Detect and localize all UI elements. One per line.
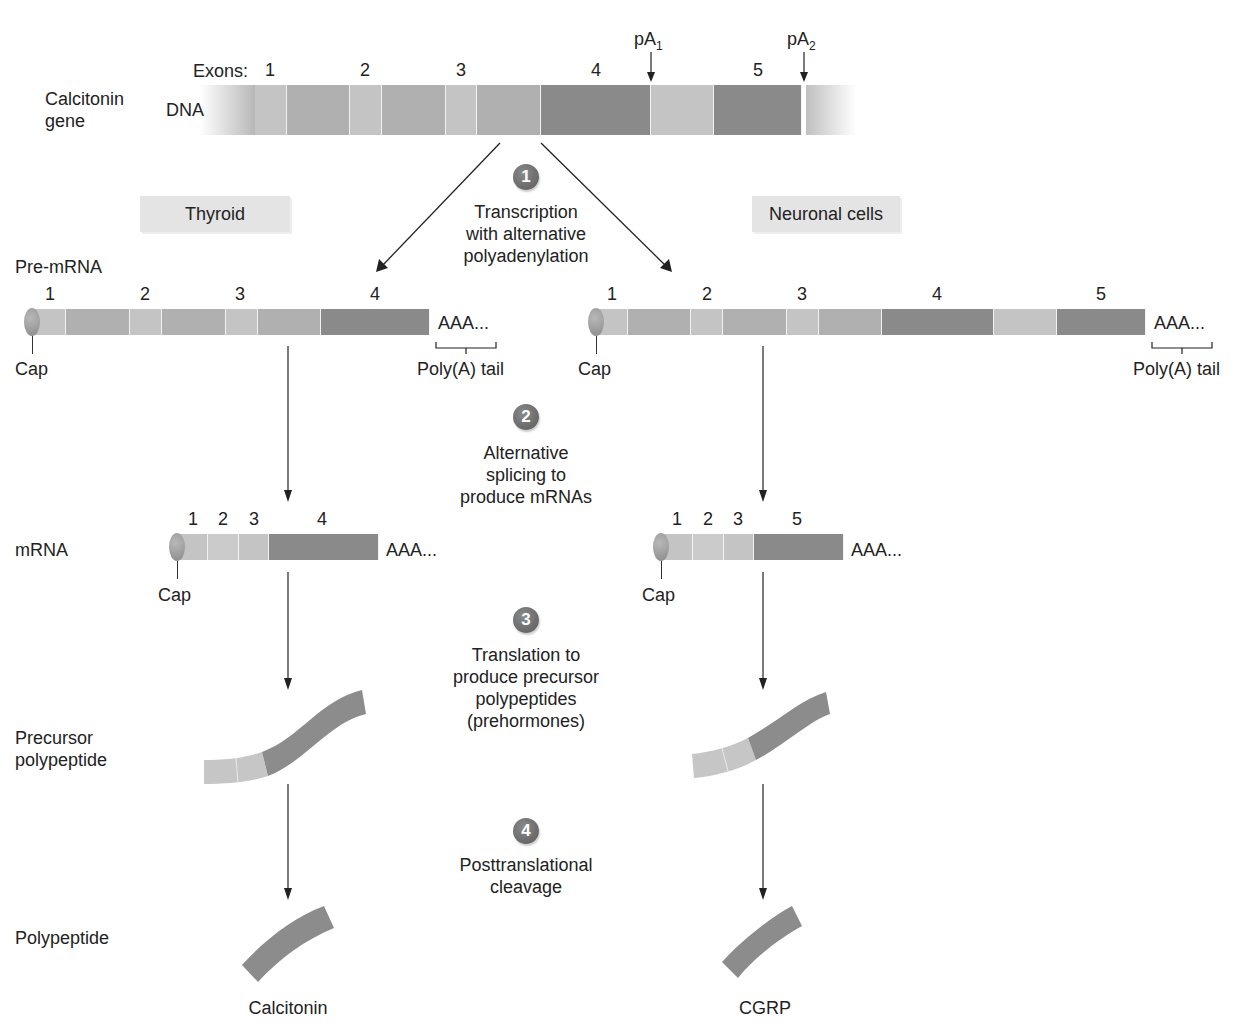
pre-left-polya-tail-label: Poly(A) tail [417, 358, 504, 380]
gene-title-line2: gene [45, 110, 85, 132]
mrna-right-exon-2 [693, 534, 724, 560]
dna-exon-5 [714, 85, 802, 135]
mrna-left-exon-4-label: 4 [317, 509, 327, 530]
pre-right-exon-5 [1057, 309, 1146, 335]
step-1-text: Transcriptionwith alternativepolyadenyla… [426, 201, 626, 267]
mrna-right-exon-1-label: 1 [672, 509, 682, 530]
product-calcitonin: Calcitonin [228, 997, 348, 1019]
mrna-left-exon-3-label: 3 [249, 509, 259, 530]
cgrp-shape [722, 906, 802, 978]
pre-right-intron-4 [994, 309, 1057, 335]
pre-right-exon-4 [882, 309, 994, 335]
dna-exon-4 [541, 85, 651, 135]
pre-right-polya: AAA... [1154, 312, 1205, 334]
pre-mrna-label: Pre-mRNA [15, 256, 102, 278]
dna-bar [255, 85, 802, 135]
dna-exon-2-label: 2 [360, 60, 370, 81]
pre-right-intron-3 [819, 309, 882, 335]
mrna-right-polya: AAA... [851, 539, 902, 561]
pre-left-exon-1-label: 1 [45, 284, 55, 305]
mrna-left-exon-4 [269, 534, 379, 560]
cap-stem [177, 561, 178, 579]
tissue-neuronal-cells: Neuronal cells [752, 196, 900, 232]
step-4-badge: 4 [513, 818, 539, 844]
cap-stem [596, 336, 597, 354]
dna-exon-3-label: 3 [456, 60, 466, 81]
step-4-text: Posttranslationalcleavage [426, 854, 626, 898]
pre-right-polya-tail-label: Poly(A) tail [1133, 358, 1220, 380]
dna-exon-4-label: 4 [591, 60, 601, 81]
mrna-left-exon-2-label: 2 [218, 509, 228, 530]
step-3-text: Translation toproduce precursorpolypepti… [416, 644, 636, 732]
gene-title-line1: Calcitonin [45, 88, 124, 110]
mrna-left-exon-2 [208, 534, 239, 560]
dna-exon-1-label: 1 [265, 60, 275, 81]
cap-stem [32, 336, 33, 354]
polypeptide-label: Polypeptide [15, 927, 109, 949]
mrna-right-exon-5-label: 5 [792, 509, 802, 530]
mrna-left-polya: AAA... [386, 539, 437, 561]
dna-exon-2 [350, 85, 382, 135]
dna-label: DNA [166, 99, 204, 121]
cap-icon [24, 308, 40, 336]
calcitonin-shape [242, 906, 334, 982]
pa2-label: pA2 [787, 28, 816, 57]
mrna-right-exon-3 [724, 534, 754, 560]
pre-left-intron-1 [66, 309, 130, 335]
mrna-right-exon-5 [754, 534, 844, 560]
mrna-right-bar [661, 534, 844, 560]
pre-right-exon-4-label: 4 [932, 284, 942, 305]
pre-left-exon-4-label: 4 [370, 284, 380, 305]
step-2-badge: 2 [513, 404, 539, 430]
tissue-thyroid: Thyroid [140, 196, 290, 232]
precursor-label-line1: Precursor [15, 727, 93, 749]
pre-left-exon-2 [130, 309, 162, 335]
pre-mrna-right-bar [596, 309, 1146, 335]
precursor-label-line2: polypeptide [15, 749, 107, 771]
mrna-right-exon-2-label: 2 [703, 509, 713, 530]
mrna-left-bar [176, 534, 379, 560]
mrna-left-cap-label: Cap [158, 584, 191, 606]
dna-exon-3 [446, 85, 477, 135]
pre-left-intron-3 [258, 309, 321, 335]
dna-intron-2 [382, 85, 446, 135]
pre-left-exon-4 [321, 309, 430, 335]
pre-right-exon-2 [691, 309, 723, 335]
pre-right-intron-1 [628, 309, 691, 335]
pre-left-exon-2-label: 2 [140, 284, 150, 305]
dna-exon-1 [255, 85, 287, 135]
step-2-text: Alternativesplicing toproduce mRNAs [426, 442, 626, 508]
pre-right-cap-label: Cap [578, 358, 611, 380]
cap-icon [588, 308, 604, 336]
pre-right-intron-2 [723, 309, 787, 335]
mrna-right-cap-label: Cap [642, 584, 675, 606]
step-1-badge: 1 [513, 164, 539, 190]
pre-right-exon-3 [787, 309, 819, 335]
cap-stem [661, 561, 662, 579]
pre-left-exon-3-label: 3 [235, 284, 245, 305]
step-3-badge: 3 [513, 607, 539, 633]
mrna-left-exon-3 [239, 534, 269, 560]
pre-right-exon-5-label: 5 [1096, 284, 1106, 305]
precursor-polypeptide-left [204, 690, 366, 784]
pre-right-exon-1-label: 1 [607, 284, 617, 305]
pre-left-exon-2b [162, 309, 226, 335]
pre-left-polya: AAA... [438, 312, 489, 334]
mrna-right-exon-3-label: 3 [733, 509, 743, 530]
pre-left-cap-label: Cap [15, 358, 48, 380]
dna-intron-3 [477, 85, 541, 135]
dna-intron-1 [287, 85, 350, 135]
dna-intron-4 [651, 85, 714, 135]
pre-left-exon-3 [226, 309, 258, 335]
product-cgrp: CGRP [705, 997, 825, 1019]
pre-right-exon-2-label: 2 [702, 284, 712, 305]
mrna-left-exon-1-label: 1 [188, 509, 198, 530]
mrna-label: mRNA [15, 539, 68, 561]
cap-icon [653, 533, 669, 561]
pa1-label: pA1 [634, 28, 663, 57]
dna-exon-5-label: 5 [753, 60, 763, 81]
exons-label: Exons: [193, 60, 248, 82]
cap-icon [169, 533, 185, 561]
pre-right-exon-3-label: 3 [797, 284, 807, 305]
pre-mrna-left-bar [32, 309, 430, 335]
